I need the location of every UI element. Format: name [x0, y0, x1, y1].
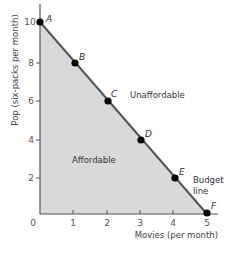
affordable-label: Affordable	[72, 155, 116, 165]
x-tick-3: 3	[137, 218, 143, 228]
x-tick-5: 5	[204, 218, 210, 228]
point-a	[36, 18, 43, 25]
point-e	[171, 174, 178, 181]
budget-line-label-1: Budget	[193, 175, 224, 185]
y-tick-8: 8	[28, 58, 34, 68]
y-tick-10: 10	[24, 17, 36, 27]
budget-line-label-2: line	[193, 186, 208, 196]
point-b-label: B	[79, 52, 85, 62]
point-b	[71, 59, 78, 66]
point-f	[203, 209, 210, 216]
unaffordable-label: Unaffordable	[130, 90, 185, 100]
x-axis-title: Movies (per month)	[135, 230, 218, 240]
point-c-label: C	[111, 89, 118, 99]
point-f-label: F	[211, 201, 217, 211]
y-tick-2: 2	[28, 173, 34, 183]
y-axis-title: Pop (six-packs per month)	[10, 14, 20, 125]
point-d	[137, 136, 144, 143]
y-tick-4: 4	[28, 135, 34, 145]
y-tick-6: 6	[28, 96, 34, 106]
x-tick-1: 1	[70, 218, 76, 228]
point-d-label: D	[145, 129, 152, 139]
x-tick-4: 4	[170, 218, 176, 228]
point-e-label: E	[179, 167, 185, 177]
x-tick-0: 0	[30, 218, 36, 228]
x-tick-2: 2	[104, 218, 110, 228]
budget-line-chart: 10 8 6 4 2 0 1 2 3 4 5 Movies (per month…	[0, 0, 231, 253]
point-a-label: A	[45, 14, 52, 24]
